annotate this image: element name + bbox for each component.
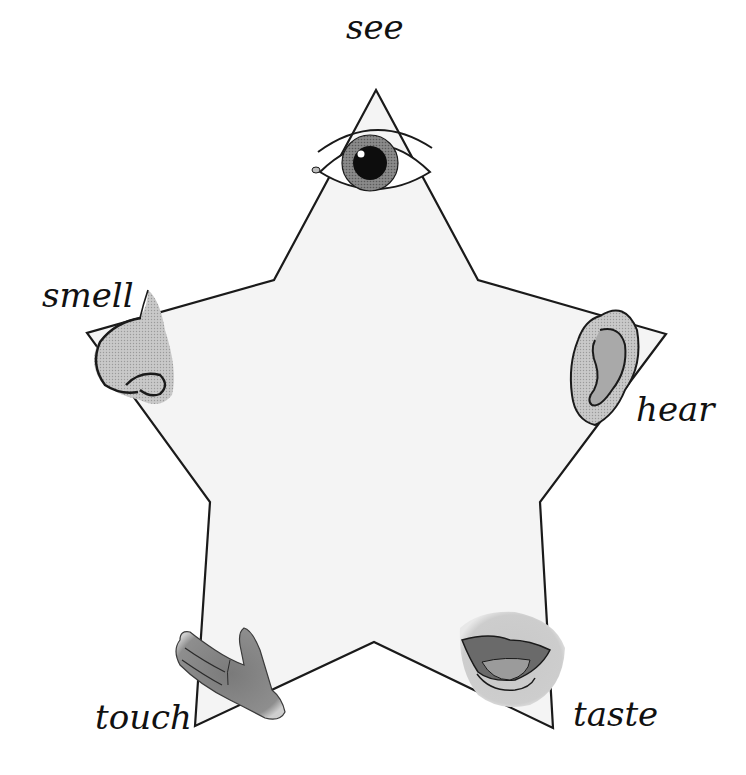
label-hear: hear [636,392,715,426]
label-taste: taste [573,697,658,731]
five-senses-diagram: see smell hear touch taste [0,0,746,775]
label-smell: smell [42,278,134,312]
label-see: see [346,10,404,44]
label-touch: touch [95,700,192,734]
